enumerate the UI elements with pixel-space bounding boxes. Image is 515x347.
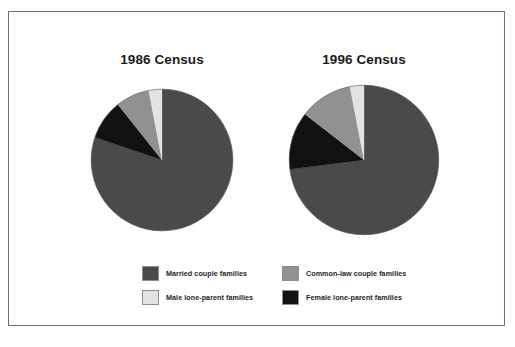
chart-title-1986: 1986 Census bbox=[87, 52, 237, 67]
legend-label-married-couple-families: Married couple families bbox=[166, 269, 247, 278]
pie-chart-1996-svg bbox=[287, 83, 441, 237]
legend-swatch-female-lone-parent-families bbox=[282, 290, 299, 305]
pie-slices-1996 bbox=[289, 85, 438, 234]
pie-slices-1986 bbox=[91, 89, 233, 231]
legend-label-female-lone-parent-families: Female lone-parent families bbox=[306, 293, 402, 302]
chart-title-1996: 1996 Census bbox=[289, 52, 439, 67]
pie-chart-1986 bbox=[89, 87, 235, 233]
pie-chart-1996 bbox=[287, 83, 441, 237]
legend-label-common-law-couple-families: Common-law couple families bbox=[306, 269, 406, 278]
legend-swatch-common-law-couple-families bbox=[282, 266, 299, 281]
legend-label-male-lone-parent-families: Male lone-parent families bbox=[166, 293, 253, 302]
legend-item-male-lone-parent-families: Male lone-parent families bbox=[142, 290, 253, 305]
legend-swatch-married-couple-families bbox=[142, 266, 159, 281]
legend-item-married-couple-families: Married couple families bbox=[142, 266, 247, 281]
figure-root: 1986 Census 1996 Census Married couple f… bbox=[0, 0, 515, 347]
legend-item-female-lone-parent-families: Female lone-parent families bbox=[282, 290, 402, 305]
figure-frame: 1986 Census 1996 Census Married couple f… bbox=[8, 11, 505, 326]
chart-legend: Married couple families Common-law coupl… bbox=[142, 266, 412, 318]
pie-chart-1986-svg bbox=[89, 87, 235, 233]
legend-item-common-law-couple-families: Common-law couple families bbox=[282, 266, 406, 281]
legend-swatch-male-lone-parent-families bbox=[142, 290, 159, 305]
